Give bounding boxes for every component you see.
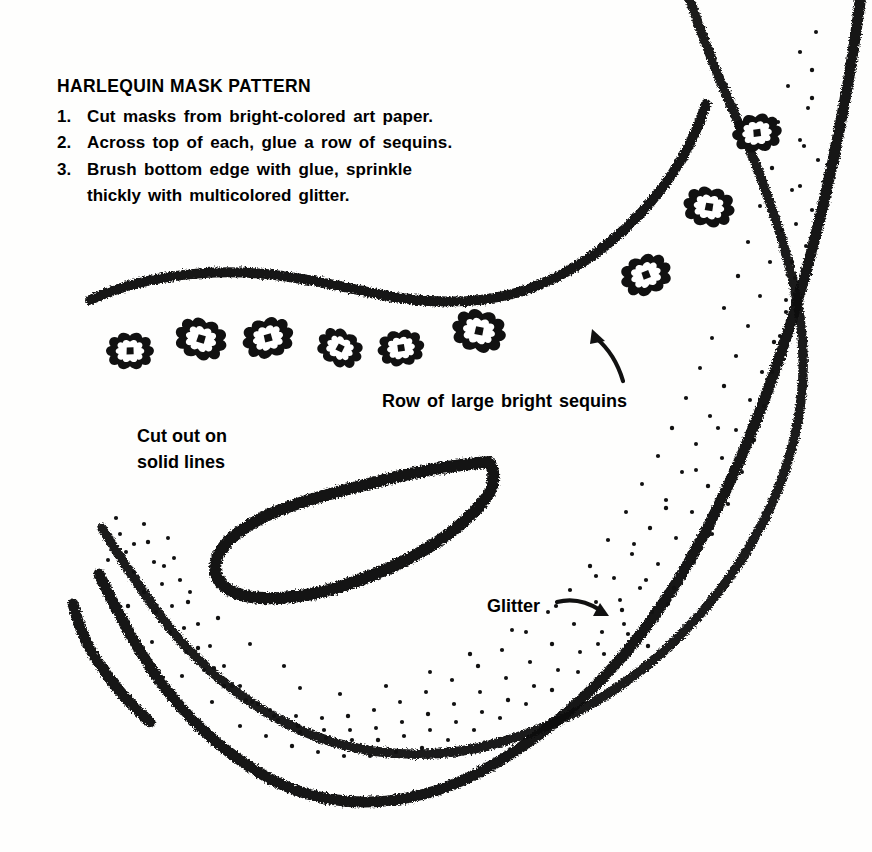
step-number: 1. [57,104,87,130]
instruction-step-2: 2. Across top of each, glue a row of seq… [57,130,527,156]
sequin [106,333,154,369]
instruction-step-1: 1. Cut masks from bright-colored art pap… [57,104,527,130]
callout-glitter: Glitter [487,596,540,617]
step-number: 3. [57,157,87,183]
step-number: 2. [57,130,87,156]
callout-row-of-sequins: Row of large bright sequins [382,391,627,412]
sequin [238,313,298,363]
sequin [375,327,426,369]
callout-cutout-line-2: solid lines [137,449,287,475]
page-title: HARLEQUIN MASK PATTERN [57,76,527,97]
eye-hole-cutout [215,462,493,598]
instructions-block: HARLEQUIN MASK PATTERN 1. Cut masks from… [57,76,527,209]
instruction-step-3: 3. Brush bottom edge with glue, sprinkle [57,157,527,183]
callout-cut-out-on-solid-lines: Cut out on solid lines [137,423,287,475]
sequin [170,312,232,366]
step-text: Cut masks from bright-colored art paper. [87,104,527,130]
instruction-step-3-continuation: thickly with multicolored glitter. [87,183,527,209]
arrow-to-sequin [590,329,623,381]
sequin [311,321,369,374]
step-text: Brush bottom edge with glue, sprinkle [87,157,527,183]
sequin [448,305,510,357]
sequin [680,183,738,231]
sequin [615,248,677,302]
illustration-page: HARLEQUIN MASK PATTERN 1. Cut masks from… [0,0,872,852]
arrow-to-glitter [557,600,609,616]
callout-cutout-line-1: Cut out on [137,423,287,449]
step-text: Across top of each, glue a row of sequin… [87,130,527,156]
